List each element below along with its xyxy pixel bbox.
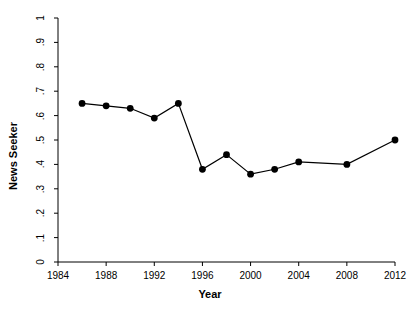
y-tick-label: .7 [34,80,48,102]
x-tick-label: 1996 [182,270,222,281]
y-tick-label: .1 [34,227,48,249]
x-tick-label: 1984 [38,270,78,281]
y-tick-label: .6 [34,105,48,127]
plot-area [0,0,420,312]
data-point [79,100,86,107]
data-point [343,161,350,168]
data-series [79,100,399,178]
data-point [103,102,110,109]
data-point [247,171,254,178]
data-point [295,159,302,166]
x-tick-label: 2012 [375,270,415,281]
y-tick-label: .4 [34,153,48,175]
x-tick-label: 2000 [231,270,271,281]
data-point [271,166,278,173]
x-tick-label: 2008 [327,270,367,281]
y-tick-label: 1 [34,7,48,29]
x-axis-title: Year [0,288,420,300]
data-point [223,151,230,158]
y-tick-label: .8 [34,56,48,78]
data-point [199,166,206,173]
y-tick-label: .9 [34,31,48,53]
y-tick-label: .5 [34,129,48,151]
line-chart: 0.1.2.3.4.5.6.7.8.91 1984198819921996200… [0,0,420,312]
x-tick-label: 1992 [134,270,174,281]
x-tick-label: 1988 [86,270,126,281]
y-tick-label: .3 [34,178,48,200]
data-point [392,137,399,144]
axes [54,18,395,266]
data-point [151,115,158,122]
x-tick-label: 2004 [279,270,319,281]
y-tick-label: .2 [34,202,48,224]
data-point [127,105,134,112]
data-point [175,100,182,107]
